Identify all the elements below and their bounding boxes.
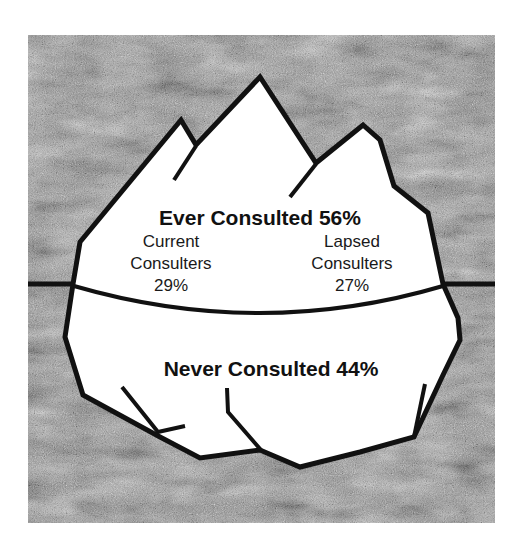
ever-consulted-label: Ever Consulted 56% <box>159 206 361 229</box>
lapsed-consulters-line1: Lapsed <box>324 232 380 251</box>
lapsed-consulters-line2: Consulters <box>311 254 392 273</box>
iceberg-diagram: Ever Consulted 56% Current Consulters 29… <box>0 0 521 555</box>
current-consulters-value: 29% <box>154 276 188 295</box>
current-consulters-line2: Consulters <box>130 254 211 273</box>
current-consulters-line1: Current <box>143 232 200 251</box>
lapsed-consulters-value: 27% <box>335 276 369 295</box>
never-consulted-label: Never Consulted 44% <box>164 357 379 380</box>
